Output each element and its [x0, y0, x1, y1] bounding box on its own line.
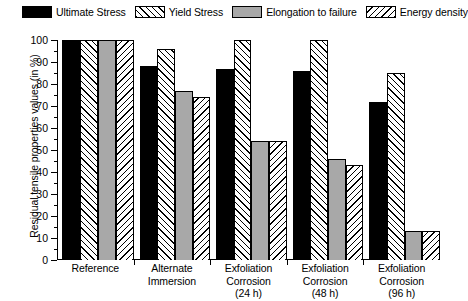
x-axis-category-line: Immersion — [134, 275, 211, 288]
y-tick-label: 10 — [36, 232, 48, 244]
bar — [175, 91, 193, 260]
y-tick-label: 100 — [30, 34, 48, 46]
bar-group — [363, 40, 440, 260]
bar — [269, 141, 287, 260]
legend-swatch-energy-density — [366, 6, 396, 18]
bar — [234, 40, 252, 260]
bar — [116, 40, 134, 260]
legend-label-elongation-to-failure: Elongation to failure — [266, 6, 357, 18]
y-tick-label: 50 — [36, 144, 48, 156]
y-tick-label: 70 — [36, 100, 48, 112]
y-tick-label: 30 — [36, 188, 48, 200]
y-tick-label: 80 — [36, 78, 48, 90]
legend-label-ultimate-stress: Ultimate Stress — [56, 6, 126, 18]
y-tick-label: 90 — [36, 56, 48, 68]
bar-group — [287, 40, 364, 260]
x-axis-category-line: Corrosion — [363, 275, 440, 288]
legend-swatch-ultimate-stress — [22, 6, 52, 18]
y-tick-major — [51, 260, 57, 261]
x-axis-category-line: Exfoliation — [287, 262, 364, 275]
legend-label-yield-stress: Yield Stress — [169, 6, 223, 18]
legend-item-energy-density: Energy density — [366, 6, 468, 18]
bar — [157, 49, 175, 260]
bar-groups — [57, 40, 440, 260]
x-axis-category-label: ExfoliationCorrosion(24 h) — [210, 262, 287, 300]
x-axis-labels: ReferenceAlternateImmersionExfoliationCo… — [57, 262, 440, 300]
x-axis-category-label: Reference — [57, 262, 134, 300]
bar — [346, 165, 364, 260]
bar-group — [57, 40, 134, 260]
bar — [62, 40, 80, 260]
x-axis-category-line: Alternate — [134, 262, 211, 275]
bar — [422, 231, 440, 260]
x-axis-category-line: Corrosion — [287, 275, 364, 288]
x-axis-category-line: Exfoliation — [210, 262, 287, 275]
legend-item-elongation-to-failure: Elongation to failure — [232, 6, 357, 18]
chart-legend: Ultimate Stress Yield Stress Elongation … — [0, 2, 447, 22]
bar — [293, 71, 311, 260]
y-tick-label: 60 — [36, 122, 48, 134]
bar — [216, 69, 234, 260]
x-axis-category-label: ExfoliationCorrosion(96 h) — [363, 262, 440, 300]
bar — [405, 231, 423, 260]
y-tick-label: 20 — [36, 210, 48, 222]
x-axis-category-line: (96 h) — [363, 287, 440, 300]
legend-swatch-yield-stress — [135, 6, 165, 18]
bar — [369, 102, 387, 260]
bar — [251, 141, 269, 260]
bar — [310, 40, 328, 260]
x-axis-category-line: (48 h) — [287, 287, 364, 300]
bar-group — [134, 40, 211, 260]
x-axis-category-label: ExfoliationCorrosion(48 h) — [287, 262, 364, 300]
y-tick-label: 0 — [42, 254, 48, 266]
x-axis-category-label: AlternateImmersion — [134, 262, 211, 300]
legend-label-energy-density: Energy density — [400, 6, 468, 18]
bar — [140, 66, 158, 260]
x-axis-category-line: Exfoliation — [363, 262, 440, 275]
x-axis-category-line: Corrosion — [210, 275, 287, 288]
bar — [98, 40, 116, 260]
bar — [387, 73, 405, 260]
bar — [193, 97, 211, 260]
y-tick-label: 40 — [36, 166, 48, 178]
legend-item-yield-stress: Yield Stress — [135, 6, 223, 18]
legend-swatch-elongation-to-failure — [232, 6, 262, 18]
bar — [80, 40, 98, 260]
x-axis-category-line: Reference — [57, 262, 134, 275]
bar-group — [210, 40, 287, 260]
legend-item-ultimate-stress: Ultimate Stress — [22, 6, 126, 18]
x-axis-category-line: (24 h) — [210, 287, 287, 300]
bar — [328, 159, 346, 260]
